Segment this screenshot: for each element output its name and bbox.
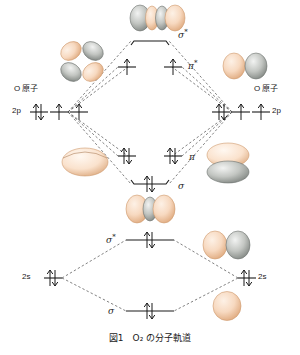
sigma-2p-label: σ xyxy=(178,180,184,191)
pi-2p-symbol: π xyxy=(189,152,195,162)
pi-star-2p-asterisk: * xyxy=(194,59,198,67)
pi-2p-label: π xyxy=(189,151,195,162)
left-2p-label: 2p xyxy=(12,107,21,115)
mo-level-sigma-star-2p xyxy=(131,41,169,45)
pi-orbital-stacked-discs-icon xyxy=(207,143,249,183)
sigma-2p-symbol: σ xyxy=(178,181,184,191)
right-2p-label: 2p xyxy=(272,107,281,115)
sigma-star-2p-label: σ* xyxy=(178,29,188,40)
figure-caption: 図1 O₂ の分子軌道 xyxy=(0,334,300,343)
sigma-star-2p-asterisk: * xyxy=(184,28,188,36)
right-2s-label: 2s xyxy=(258,273,266,281)
mo-diagram-svg xyxy=(0,0,300,355)
pi-orbital-disc-icon xyxy=(62,148,108,176)
sigma-star-2s-asterisk: * xyxy=(112,233,116,241)
sigma-2s-orbital-sphere-icon xyxy=(213,292,241,321)
sigma-star-2p-orbital-lobes-icon xyxy=(130,5,185,31)
right-atom-label: O 原子 xyxy=(254,85,278,93)
p-orbital-four-lobes-icon xyxy=(57,38,107,86)
figure-canvas: O 原子 2p 2s O 原子 2p 2s σ* π* π σ σ* σ 図1 … xyxy=(0,0,300,355)
pi-star-orbital-two-lobes-icon xyxy=(223,53,267,79)
sigma-2s-label: σ xyxy=(108,305,114,316)
left-2s-label: 2s xyxy=(22,273,30,281)
pi-star-2p-label: π* xyxy=(188,60,197,71)
mo-level-sigma-2p xyxy=(131,180,169,184)
sigma-2s-symbol: σ xyxy=(108,306,114,316)
sigma-2p-orbital-lobes-icon xyxy=(126,195,175,223)
sigma-star-2s-orbital-lobes-icon xyxy=(203,231,250,259)
left-atom-label: O 原子 xyxy=(14,85,38,93)
sigma-star-2s-label: σ* xyxy=(106,234,116,245)
